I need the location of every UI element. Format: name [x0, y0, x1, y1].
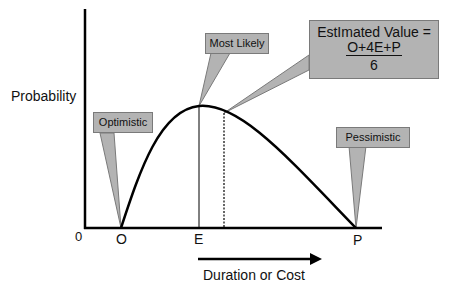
y-axis-label: Probability [11, 88, 76, 104]
optimistic-callout: Optimistic [93, 112, 153, 133]
estimated-value-denominator: 6 [310, 56, 438, 74]
x-axis-label: Duration or Cost [203, 267, 305, 283]
estimated-value-numerator: O+4E+P [310, 40, 438, 56]
origin-label: 0 [75, 229, 82, 244]
optimistic-pointer [100, 133, 121, 228]
pessimistic-label: Pessimistic [345, 131, 400, 143]
most-likely-label: Most Likely [209, 37, 264, 49]
x-tick-o: O [116, 231, 127, 247]
most-likely-pointer [199, 53, 230, 106]
x-tick-p: P [353, 232, 362, 248]
estimated-value-title: EstImated Value = [310, 24, 438, 40]
distribution-curve [121, 106, 356, 228]
pessimistic-pointer [349, 146, 366, 228]
estimated-value-pointer [224, 55, 309, 113]
pessimistic-callout: Pessimistic [336, 127, 410, 148]
arrow-right-icon [310, 253, 322, 265]
x-tick-e: E [194, 231, 203, 247]
optimistic-label: Optimistic [99, 116, 147, 128]
estimated-value-callout: EstImated Value = O+4E+P 6 [309, 20, 439, 79]
most-likely-callout: Most Likely [205, 33, 269, 54]
